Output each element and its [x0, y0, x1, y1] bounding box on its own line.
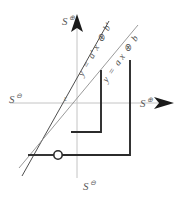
- axis-label-right: S: [140, 97, 146, 109]
- axis-label-top: S: [62, 15, 68, 27]
- axis-label-left-sup: ⊖: [16, 92, 22, 100]
- diagram-canvas: ε S ⊕ S ⊕ S ⊖ S ⊖: [0, 0, 189, 198]
- staircase-primed-path: [71, 70, 101, 132]
- axis-label-bottom: S: [83, 180, 89, 192]
- axis-label-left: S: [9, 93, 15, 105]
- intersection-marker: [54, 151, 62, 159]
- tropical-lines-group: [19, 21, 138, 176]
- axis-label-bottom-sup: ⊖: [90, 179, 96, 187]
- eq-primed-x: x: [90, 42, 102, 52]
- equation-label-plain: y = a x ⊕ b: [100, 33, 140, 85]
- eq-plain-eq: =: [106, 66, 118, 77]
- origin-label: ε: [64, 94, 67, 103]
- eq-plain-x: x: [116, 51, 128, 62]
- figure-root: ε S ⊕ S ⊕ S ⊖ S ⊖: [0, 0, 189, 198]
- eq-plain-oplus: ⊕: [122, 41, 135, 53]
- axis-label-top-sup: ⊕: [69, 14, 75, 22]
- staircase-plain-path: [62, 60, 130, 155]
- line-plain-path: [19, 25, 138, 168]
- axis-label-right-sup: ⊕: [147, 96, 153, 104]
- eq-plain-b: b: [129, 33, 140, 43]
